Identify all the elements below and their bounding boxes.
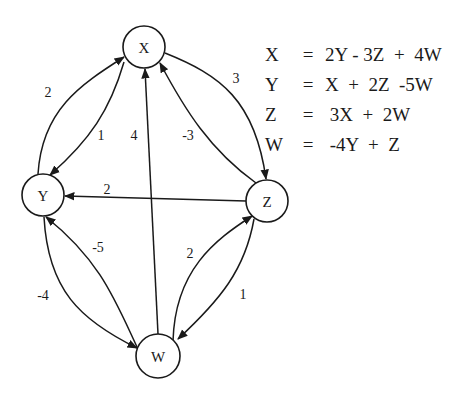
edge-x-to-y	[50, 62, 124, 175]
equation-w: W = -4Y + Z	[265, 130, 442, 160]
edge-label-z-to-y: 2	[104, 182, 111, 197]
edge-label-w-to-x: 4	[131, 128, 138, 143]
edge-z-to-w	[178, 219, 254, 339]
edge-x-to-z	[165, 53, 266, 179]
equation-rhs: -4Y + Z	[325, 130, 400, 160]
edge-y-to-x	[38, 57, 124, 174]
node-x-label: X	[139, 40, 150, 56]
equation-lhs: Z	[265, 100, 291, 130]
edge-z-to-y	[65, 196, 246, 201]
node-y-label: Y	[38, 188, 49, 204]
equation-y: Y = X + 2Z -5W	[265, 70, 442, 100]
edge-label-x-to-z: 3	[233, 71, 240, 86]
edge-label-w-to-z: 2	[187, 246, 194, 261]
edge-label-y-to-w: -4	[37, 288, 49, 303]
equals-sign: =	[291, 130, 325, 160]
node-y: Y	[22, 174, 64, 216]
equation-lhs: W	[265, 130, 291, 160]
node-w-label: W	[151, 349, 166, 365]
equation-lhs: X	[265, 40, 291, 70]
equation-rhs: 2Y - 3Z + 4W	[325, 40, 442, 70]
equation-rhs: X + 2Z -5W	[325, 70, 433, 100]
node-w: W	[136, 334, 180, 378]
equation-z: Z = 3X + 2W	[265, 100, 442, 130]
edge-label-x-to-y: 1	[98, 128, 105, 143]
equals-sign: =	[291, 40, 325, 70]
equation-lhs: Y	[265, 70, 291, 100]
edge-y-to-w	[44, 217, 137, 348]
equals-sign: =	[291, 70, 325, 100]
node-z: Z	[246, 180, 288, 222]
node-x: X	[123, 26, 165, 68]
equation-system: X = 2Y - 3Z + 4W Y = X + 2Z -5W Z = 3X +…	[265, 40, 442, 160]
edge-label-z-to-x: -3	[182, 128, 194, 143]
edge-label-w-to-y: -5	[92, 240, 104, 255]
edge-w-to-z	[173, 216, 252, 341]
equation-x: X = 2Y - 3Z + 4W	[265, 40, 442, 70]
node-z-label: Z	[262, 194, 271, 210]
equals-sign: =	[291, 100, 325, 130]
edge-z-to-x	[160, 63, 256, 183]
edge-w-to-x	[145, 69, 158, 334]
equation-rhs: 3X + 2W	[325, 100, 410, 130]
edge-label-z-to-w: 1	[240, 287, 247, 302]
edge-label-y-to-x: 2	[45, 85, 52, 100]
